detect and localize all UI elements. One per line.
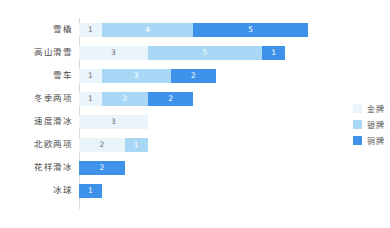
category-label: 冬季两项 [0, 94, 79, 103]
bar-segment-gold[interactable]: 3 [79, 115, 148, 129]
bar-segment-gold[interactable]: 1 [79, 69, 102, 83]
category-label: 冰球 [0, 186, 79, 195]
category-label: 高山滑雪 [0, 48, 79, 57]
category-label: 花样滑冰 [0, 163, 79, 172]
chart-legend: 金牌 银牌 铜牌 [353, 103, 384, 146]
bar-segment-silver[interactable]: 4 [102, 23, 194, 37]
bar-segment-gold[interactable]: 1 [79, 92, 102, 106]
bar-segment-bronze[interactable]: 2 [148, 92, 194, 106]
bar-stack: 1 2 2 [79, 92, 193, 106]
bar-stack: 3 5 1 [79, 46, 285, 60]
bar-segment-silver[interactable]: 1 [125, 138, 148, 152]
legend-item-silver[interactable]: 银牌 [353, 119, 384, 130]
bar-track: 1 3 2 [79, 64, 390, 87]
bar-stack: 1 4 5 [79, 23, 308, 37]
table-row[interactable]: 冬季两项 1 2 2 [0, 87, 390, 110]
bar-track: 2 1 [79, 133, 390, 156]
bar-segment-bronze[interactable]: 2 [79, 161, 125, 175]
bar-stack: 1 3 2 [79, 69, 216, 83]
table-row[interactable]: 雪车 1 3 2 [0, 64, 390, 87]
bar-segment-bronze[interactable]: 2 [171, 69, 217, 83]
bar-segment-bronze[interactable]: 1 [79, 184, 102, 198]
bar-track: 3 5 1 [79, 41, 390, 64]
category-label: 速度滑冰 [0, 117, 79, 126]
table-row[interactable]: 速度滑冰 3 [0, 110, 390, 133]
bar-stack: 2 [79, 161, 125, 175]
category-label: 雪橇 [0, 25, 79, 34]
bar-segment-silver[interactable]: 3 [102, 69, 171, 83]
bar-track: 3 [79, 110, 390, 133]
bar-stack: 2 1 [79, 138, 148, 152]
bar-track: 1 2 2 [79, 87, 390, 110]
bar-track: 2 [79, 156, 390, 179]
bar-segment-silver[interactable]: 5 [148, 46, 263, 60]
legend-label: 金牌 [367, 103, 384, 114]
table-row[interactable]: 冰球 1 [0, 179, 390, 202]
bar-stack: 1 [79, 184, 102, 198]
bar-track: 1 4 5 [79, 18, 390, 41]
legend-label: 银牌 [367, 119, 384, 130]
category-label: 北欧两项 [0, 140, 79, 149]
category-label: 雪车 [0, 71, 79, 80]
bar-segment-bronze[interactable]: 5 [193, 23, 308, 37]
legend-label: 铜牌 [367, 135, 384, 146]
bar-segment-silver[interactable]: 2 [102, 92, 148, 106]
legend-item-bronze[interactable]: 铜牌 [353, 135, 384, 146]
bar-segment-gold[interactable]: 2 [79, 138, 125, 152]
bar-stack: 3 [79, 115, 148, 129]
table-row[interactable]: 花样滑冰 2 [0, 156, 390, 179]
stacked-bar-chart: 雪橇 1 4 5 高山滑雪 3 5 1 雪车 [0, 0, 390, 228]
legend-item-gold[interactable]: 金牌 [353, 103, 384, 114]
bar-segment-gold[interactable]: 3 [79, 46, 148, 60]
bar-segment-gold[interactable]: 1 [79, 23, 102, 37]
bar-track: 1 [79, 179, 390, 202]
legend-swatch-icon [353, 136, 362, 145]
table-row[interactable]: 高山滑雪 3 5 1 [0, 41, 390, 64]
bar-segment-bronze[interactable]: 1 [262, 46, 285, 60]
table-row[interactable]: 雪橇 1 4 5 [0, 18, 390, 41]
plot-area: 雪橇 1 4 5 高山滑雪 3 5 1 雪车 [0, 18, 390, 208]
legend-swatch-icon [353, 104, 362, 113]
legend-swatch-icon [353, 120, 362, 129]
table-row[interactable]: 北欧两项 2 1 [0, 133, 390, 156]
